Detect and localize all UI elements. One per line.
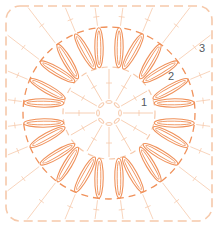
stitch-line-inner [121,120,147,135]
center-chain [97,110,100,116]
center-chain [114,102,121,109]
petal-stitch [24,99,64,108]
petal-stitch-inner [58,46,78,77]
petal-stitch-inner [32,127,63,147]
stitch-tick [14,98,15,104]
stitch-tick [91,86,96,89]
stitch-line-inner [71,120,97,135]
petal-stitch-inner [123,159,143,190]
stitch-tick [22,176,26,181]
petal-stitch-inner [155,127,186,147]
petal-stitch [38,58,77,86]
petal-stitch-inner [75,36,95,67]
stitch-line-inner [87,75,102,101]
petal-stitch-inner [42,62,73,82]
stitch-tick [193,176,197,181]
stitch-tick [82,95,85,100]
stitch-line-inner [116,75,131,101]
petal-stitch [141,140,180,168]
stitch-tick [133,95,136,100]
stitch-tick [14,122,15,128]
stitch-tick [119,209,125,210]
center-chain [114,118,121,125]
stitch-tick [119,16,125,17]
stitch-tick [91,137,96,140]
petal-stitch-inner [157,101,191,105]
stitch-line-inner [116,125,131,151]
petal-stitch [154,99,194,108]
petal-stitch [54,145,82,184]
crochet-chart-svg [0,0,218,227]
stitch-line-inner [87,125,102,151]
petal-stitch-inner [27,101,61,105]
stitch-tick [133,125,136,130]
petal-stitch-inner [27,121,61,125]
petal-stitch-inner [58,149,78,180]
petal-stitch [136,145,164,184]
petal-stitch-inner [117,161,121,195]
round-label-2: 2 [168,71,174,82]
petal-stitch-inner [97,161,101,195]
petal-stitch-inner [145,144,176,164]
round-label-3: 3 [199,43,205,54]
stitch-tick [121,137,126,140]
stitch-tick [174,199,179,203]
petal-stitch [38,140,77,168]
petal-stitch [115,158,124,198]
outer-chain-ring [23,27,195,199]
petal-stitch-inner [123,36,143,67]
stitch-tick [203,98,204,104]
stitch-tick [193,45,197,50]
petal-stitch-inner [155,79,186,99]
petal-stitch-inner [75,159,95,190]
stitch-line-inner [71,91,97,106]
stitch-tick [82,125,85,130]
stitch-tick [203,122,204,128]
round-label-1: 1 [141,97,147,108]
petal-stitch [54,42,82,81]
center-chain [98,102,105,109]
border-chain [6,6,212,221]
petal-stitch-inner [140,46,160,77]
petal-stitch-inner [157,121,191,125]
center-chain [106,123,112,126]
stitch-tick [39,199,44,203]
petal-stitch [95,28,104,68]
petal-stitch-inner [97,31,101,65]
petal-stitch-inner [117,31,121,65]
stitch-tick [121,86,126,89]
stitch-tick [22,45,26,50]
petal-stitch [95,158,104,198]
center-chain [106,101,112,104]
stitch-tick [93,209,99,210]
petal-stitch [154,119,194,128]
petal-stitch-inner [42,144,73,164]
stitch-tick [174,24,179,28]
petal-stitch [136,42,164,81]
petal-stitch-inner [32,79,63,99]
crochet-diagram: 1 2 3 [0,0,218,227]
center-chain [119,110,122,116]
petal-stitch [24,119,64,128]
petal-stitch-inner [140,149,160,180]
petal-stitch [115,28,124,68]
stitch-tick [39,24,44,28]
center-chain [98,118,105,125]
stitch-tick [93,16,99,17]
